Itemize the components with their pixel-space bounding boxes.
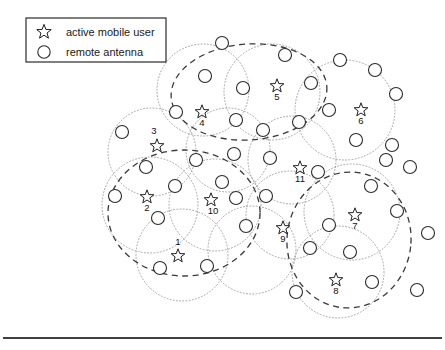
remote-antenna-marker	[305, 77, 318, 90]
remote-antenna-marker	[257, 124, 270, 137]
active-user-label-5: 5	[274, 91, 279, 102]
remote-antenna-marker	[411, 284, 424, 297]
remote-antenna-marker	[365, 180, 378, 193]
active-user-label-4: 4	[199, 117, 204, 128]
active-user-star-4	[195, 105, 209, 118]
active-user-label-11: 11	[295, 173, 305, 184]
legend: active mobile userremote antenna	[26, 18, 166, 62]
coverage-cell	[246, 171, 334, 259]
remote-antenna-marker	[391, 205, 404, 218]
active-user-star-10	[204, 193, 218, 206]
cluster-boundaries-layer	[108, 39, 418, 314]
active-user-star-9	[276, 221, 290, 234]
remote-antenna-marker	[344, 246, 357, 259]
active-user-label-7: 7	[352, 220, 357, 231]
remote-antenna-marker	[323, 219, 336, 232]
coverage-cell	[295, 60, 395, 160]
remote-antenna-marker	[290, 286, 303, 299]
active-user-star-11	[293, 161, 307, 174]
remote-antenna-marker	[264, 152, 277, 165]
diagram-canvas: 1234567891011 active mobile userremote a…	[0, 0, 445, 350]
remote-antenna-marker	[312, 166, 325, 179]
remote-antenna-marker	[230, 192, 243, 205]
remote-antenna-marker	[201, 260, 214, 273]
legend-label-0: active mobile user	[66, 26, 155, 38]
remote-antennas-layer	[109, 37, 435, 299]
active-user-label-1: 1	[175, 236, 180, 247]
active-user-star-5	[270, 79, 284, 92]
remote-antenna-marker	[154, 262, 167, 275]
remote-antenna-marker	[140, 161, 153, 174]
remote-antenna-marker	[228, 148, 241, 161]
remote-antenna-marker	[422, 227, 435, 240]
active-user-label-3: 3	[151, 125, 156, 136]
remote-antenna-marker	[260, 190, 273, 203]
circle-icon	[38, 46, 50, 58]
remote-antenna-marker	[169, 180, 182, 193]
remote-antenna-marker	[230, 114, 243, 127]
coverage-cell	[292, 226, 384, 318]
remote-antenna-marker	[216, 37, 229, 50]
remote-antenna-marker	[190, 154, 203, 167]
remote-antenna-marker	[293, 116, 306, 129]
remote-antenna-marker	[170, 106, 183, 119]
active-user-star-6	[354, 103, 368, 116]
coverage-cell	[108, 108, 196, 196]
active-user-star-8	[329, 273, 343, 286]
active-user-label-10: 10	[208, 205, 219, 216]
cluster-top	[168, 39, 330, 146]
coverage-cells-layer	[102, 44, 400, 318]
remote-antenna-marker	[304, 242, 317, 255]
remote-antenna-marker	[199, 70, 212, 83]
remote-antenna-marker	[350, 134, 363, 147]
active-user-star-7	[348, 208, 362, 221]
active-user-label-2: 2	[144, 202, 149, 213]
remote-antenna-marker	[237, 82, 250, 95]
active-user-star-2	[140, 190, 154, 203]
node-labels-layer: 1234567891011	[144, 91, 363, 296]
remote-antenna-marker	[334, 54, 347, 67]
legend-label-1: remote antenna	[66, 46, 144, 58]
network-diagram-figure: 1234567891011 active mobile userremote a…	[0, 0, 445, 350]
remote-antenna-marker	[323, 104, 336, 117]
cluster-left	[108, 150, 260, 276]
remote-antenna-marker	[390, 88, 403, 101]
remote-antenna-marker	[386, 139, 399, 152]
active-user-label-6: 6	[358, 115, 363, 126]
active-user-star-1	[171, 249, 185, 262]
remote-antenna-marker	[404, 161, 417, 174]
remote-antenna-marker	[216, 176, 229, 189]
remote-antenna-marker	[116, 126, 129, 139]
coverage-cell	[208, 206, 296, 294]
remote-antenna-marker	[152, 212, 165, 225]
active-user-label-8: 8	[333, 285, 338, 296]
remote-antenna-marker	[366, 276, 379, 289]
remote-antenna-marker	[369, 64, 382, 77]
remote-antenna-marker	[109, 190, 122, 203]
remote-antenna-marker	[240, 220, 253, 233]
active-user-star-3	[150, 139, 164, 152]
active-user-label-9: 9	[280, 233, 285, 244]
remote-antenna-marker	[380, 154, 393, 167]
remote-antenna-marker	[279, 49, 292, 62]
